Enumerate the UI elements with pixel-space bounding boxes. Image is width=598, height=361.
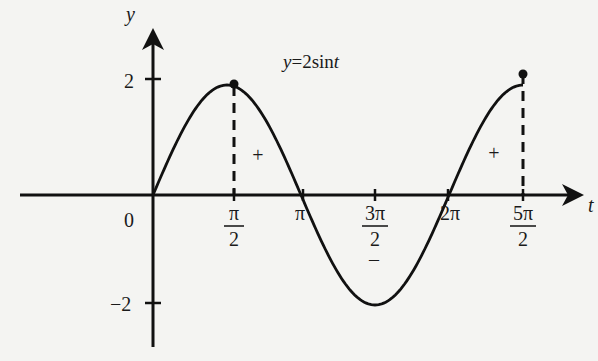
x-tick-label-5pi-half: 5π 2 — [510, 202, 536, 250]
negative-sign: – — [368, 248, 380, 270]
chart-title: y=2sint — [281, 51, 340, 72]
peak-point-5pi-half — [519, 70, 528, 79]
x-tick-label-pi: π — [295, 202, 305, 224]
x-axis-label: t — [588, 194, 594, 216]
x-tick-label-2pi: 2π — [440, 202, 460, 224]
axes — [20, 28, 584, 347]
y-tick-label-2: 2 — [124, 70, 134, 92]
svg-text:5π: 5π — [513, 202, 533, 224]
y-axis-label: y — [124, 3, 135, 26]
positive-sign-2: + — [488, 142, 499, 164]
svg-text:π: π — [229, 202, 239, 224]
x-tick-label-pi-half: π 2 — [224, 202, 244, 250]
svg-text:2: 2 — [518, 228, 528, 250]
positive-sign-1: + — [252, 144, 263, 166]
origin-label: 0 — [124, 209, 134, 231]
y-tick-label-neg2: −2 — [110, 293, 131, 315]
svg-text:2: 2 — [229, 228, 239, 250]
peak-point-pi-half — [230, 80, 239, 89]
svg-text:3π: 3π — [365, 202, 385, 224]
sine-chart: y t y=2sint 2 −2 0 π 2 π 3π 2 2π 5π 2 + … — [0, 0, 598, 361]
svg-text:2: 2 — [370, 228, 380, 250]
x-tick-label-3pi-half: 3π 2 — [362, 202, 388, 250]
